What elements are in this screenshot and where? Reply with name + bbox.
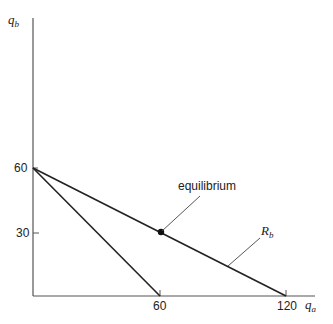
diagram-canvas: qb qa 60 30 60 120 equilibrium Rb — [0, 0, 333, 324]
y-tick-label-30: 30 — [16, 226, 30, 240]
y-axis-label: qb — [8, 12, 20, 29]
y-tick-label-60: 60 — [14, 161, 28, 175]
equilibrium-leader — [162, 196, 200, 231]
rb-label: Rb — [260, 223, 274, 240]
x-tick-label-60: 60 — [153, 299, 167, 313]
steep-line — [33, 168, 160, 296]
x-axis-label: qa — [305, 297, 317, 314]
equilibrium-label: equilibrium — [178, 179, 236, 193]
x-tick-label-120: 120 — [277, 299, 297, 313]
rb-leader — [228, 238, 260, 266]
